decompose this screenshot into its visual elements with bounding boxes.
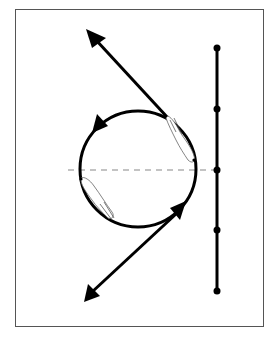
pole-point-2 — [214, 106, 221, 113]
exit-arrowhead-icon — [86, 29, 106, 48]
exit-line — [96, 40, 168, 118]
circle-arrowhead-top-left-icon — [92, 114, 108, 133]
horse-left-icon — [79, 177, 114, 220]
horse-right-icon — [166, 116, 196, 162]
pole-point-3 — [214, 167, 221, 174]
pole-point-5 — [214, 288, 221, 295]
pole-point-1 — [214, 45, 221, 52]
pole-point-4 — [214, 227, 221, 234]
riding-diagram — [0, 0, 275, 344]
